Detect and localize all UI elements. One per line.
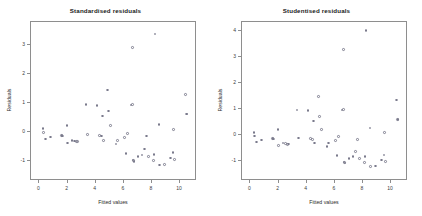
data-point <box>154 33 157 36</box>
y-axis-tick-label: 0 <box>22 128 25 134</box>
data-point <box>152 159 155 162</box>
data-point <box>296 109 299 112</box>
data-point <box>101 115 104 118</box>
data-point <box>169 157 172 160</box>
data-point <box>363 161 366 164</box>
data-point <box>365 29 368 32</box>
data-point <box>44 138 47 141</box>
data-point <box>312 120 315 123</box>
data-point <box>172 151 175 154</box>
data-point <box>354 150 357 153</box>
data-point <box>66 142 69 145</box>
data-point <box>334 139 337 142</box>
panel-standardised-residuals: Standardised residuals Fitted values Res… <box>0 0 211 216</box>
data-point <box>76 140 79 143</box>
panel-title: Studentised residuals <box>211 7 422 14</box>
x-axis-tick <box>306 180 307 183</box>
y-axis-tick-label: -1 <box>232 157 236 163</box>
data-point <box>49 136 52 139</box>
data-point <box>327 142 330 145</box>
y-axis-title: Residuals <box>217 89 223 112</box>
y-axis-tick <box>238 134 241 135</box>
data-point <box>380 159 383 162</box>
data-point <box>184 93 187 96</box>
panel-title: Standardised residuals <box>0 7 211 14</box>
data-point <box>397 118 400 121</box>
data-point <box>395 99 398 102</box>
data-point <box>186 113 189 116</box>
data-point <box>107 110 110 113</box>
data-point <box>86 133 89 136</box>
data-point <box>352 155 355 158</box>
y-axis-tick-label: 3 <box>22 41 25 47</box>
data-point <box>66 124 69 127</box>
y-axis-tick <box>27 44 30 45</box>
x-axis-tick <box>249 180 250 183</box>
x-axis-tick <box>362 180 363 183</box>
data-point <box>145 135 148 138</box>
data-point <box>253 131 256 134</box>
data-point <box>133 160 136 163</box>
x-axis-tick-label: 2 <box>276 185 279 191</box>
data-point <box>42 131 45 134</box>
data-point <box>131 46 134 49</box>
y-axis-tick <box>238 30 241 31</box>
data-point <box>158 164 161 167</box>
x-axis-tick-label: 4 <box>93 185 96 191</box>
data-point <box>277 128 280 131</box>
x-axis-tick-label: 10 <box>387 185 393 191</box>
data-point <box>260 139 263 142</box>
x-axis-tick-label: 8 <box>150 185 153 191</box>
x-axis-tick-label: 0 <box>37 185 40 191</box>
data-point <box>383 131 386 134</box>
data-point <box>109 124 112 127</box>
data-point <box>383 154 386 157</box>
y-axis-tick <box>27 102 30 103</box>
data-point <box>358 157 361 160</box>
data-point <box>369 127 372 130</box>
data-point <box>342 108 345 111</box>
data-point <box>85 103 88 106</box>
data-point <box>369 165 372 168</box>
x-axis-tick <box>95 180 96 183</box>
x-axis-tick <box>38 180 39 183</box>
data-point <box>344 162 347 165</box>
data-point <box>163 163 166 166</box>
data-point <box>153 153 156 156</box>
data-point <box>126 132 129 135</box>
data-point <box>172 128 175 131</box>
plot-frame <box>30 21 196 180</box>
y-axis-tick-label: -1 <box>21 157 25 163</box>
x-axis-tick-label: 8 <box>361 185 364 191</box>
data-point <box>336 154 339 157</box>
data-point <box>297 137 300 140</box>
x-axis-tick-label: 6 <box>121 185 124 191</box>
y-axis-tick <box>238 82 241 83</box>
data-point <box>100 135 103 138</box>
x-axis-tick-label: 4 <box>304 185 307 191</box>
data-point <box>307 109 310 112</box>
y-axis-tick-label: 2 <box>233 79 236 85</box>
data-point <box>374 165 377 168</box>
data-point <box>337 135 340 138</box>
data-point <box>384 160 387 163</box>
x-axis-tick <box>123 180 124 183</box>
data-point <box>116 139 119 142</box>
data-point <box>96 104 99 107</box>
plot-frame <box>241 21 407 180</box>
data-point <box>141 154 144 157</box>
x-axis-tick-label: 10 <box>176 185 182 191</box>
data-point <box>277 144 280 147</box>
data-point <box>42 127 45 130</box>
data-point <box>348 157 351 160</box>
x-axis-tick-label: 0 <box>248 185 251 191</box>
data-point <box>356 138 359 141</box>
y-axis-tick-label: 1 <box>233 105 236 111</box>
x-axis-tick <box>278 180 279 183</box>
data-point <box>102 139 105 142</box>
data-point <box>342 48 345 51</box>
data-point <box>317 95 320 98</box>
data-point <box>311 138 314 141</box>
data-point <box>313 142 316 145</box>
y-axis-tick <box>238 56 241 57</box>
